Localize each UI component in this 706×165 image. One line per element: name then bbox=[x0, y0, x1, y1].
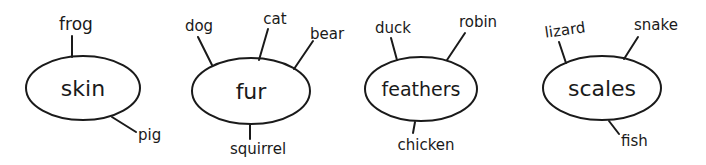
category-label-feathers: feathers bbox=[382, 78, 461, 100]
category-label-fur: fur bbox=[236, 79, 268, 104]
connector-duck bbox=[391, 38, 397, 60]
animal-label-bear: bear bbox=[310, 25, 345, 43]
animal-label-duck: duck bbox=[375, 19, 411, 37]
connector-cat bbox=[259, 29, 268, 60]
animal-label-squirrel: squirrel bbox=[230, 140, 286, 158]
connector-chicken bbox=[413, 122, 415, 133]
animal-label-frog: frog bbox=[59, 14, 93, 34]
animal-label-lizard: lizard bbox=[544, 18, 587, 42]
connector-lizard bbox=[559, 42, 566, 63]
animal-label-robin: robin bbox=[459, 13, 497, 31]
animal-label-dog: dog bbox=[185, 17, 213, 35]
animal-label-pig: pig bbox=[138, 126, 161, 144]
connector-fish bbox=[609, 121, 619, 134]
concept-web-diagram: skin frog pig fur dog cat bear squirrel … bbox=[0, 0, 706, 165]
connector-snake bbox=[624, 37, 638, 59]
connector-pig bbox=[112, 117, 136, 132]
category-label-skin: skin bbox=[61, 76, 105, 101]
animal-label-snake: snake bbox=[634, 16, 678, 34]
connector-dog bbox=[198, 37, 212, 65]
cluster-scales: scales lizard snake fish bbox=[543, 16, 678, 150]
cluster-fur: fur dog cat bear squirrel bbox=[185, 10, 345, 158]
cluster-feathers: feathers duck robin chicken bbox=[365, 13, 497, 154]
category-label-scales: scales bbox=[568, 76, 636, 101]
animal-label-cat: cat bbox=[263, 10, 286, 28]
connector-bear bbox=[294, 41, 313, 69]
animal-label-fish: fish bbox=[621, 132, 648, 150]
cluster-skin: skin frog pig bbox=[26, 14, 161, 144]
connector-robin bbox=[447, 33, 465, 60]
animal-label-chicken: chicken bbox=[397, 136, 454, 154]
